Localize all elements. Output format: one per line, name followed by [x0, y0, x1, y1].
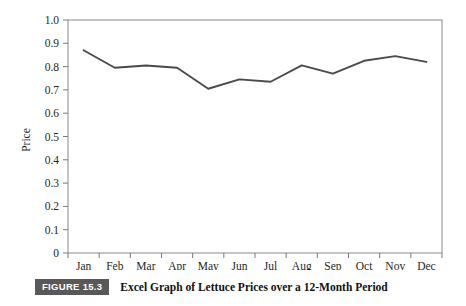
figure-container: 00.10.20.30.40.50.60.70.80.91.0 JanFebMa… — [0, 0, 466, 306]
y-axis-tick-label: 0.1 — [45, 224, 60, 236]
x-axis-tick-label: Mar — [136, 260, 155, 270]
line-chart: 00.10.20.30.40.50.60.70.80.91.0 JanFebMa… — [0, 0, 466, 270]
y-axis-tick-label: 0.6 — [45, 107, 60, 119]
x-axis-ticks — [68, 253, 442, 258]
x-axis-tick-label: Sep — [324, 260, 342, 270]
figure-caption-text: Excel Graph of Lettuce Prices over a 12-… — [120, 281, 387, 293]
x-axis-tick-label: Jul — [264, 260, 277, 270]
y-axis-tick-label: 0.3 — [45, 177, 60, 189]
y-axis-title: Price — [20, 128, 32, 152]
y-axis-tick-label: 0.2 — [45, 200, 60, 212]
y-axis-tick-label: 0.5 — [45, 131, 60, 143]
x-axis-tick-label: Jun — [231, 260, 247, 270]
y-axis-tick-label: 1.0 — [45, 14, 60, 26]
x-axis-tick-labels: JanFebMarAprMayJunJulAugSepOctNovDec — [76, 260, 436, 270]
plot-frame — [68, 20, 442, 253]
y-axis-tick-label: 0.4 — [45, 154, 60, 166]
y-axis-tick-label: 0.7 — [45, 84, 60, 96]
y-axis-tick-label: 0.9 — [45, 37, 60, 49]
y-axis-tick-label: 0.8 — [45, 61, 60, 73]
y-axis-ticks — [63, 20, 68, 253]
y-axis-tick-label: 0 — [53, 247, 59, 259]
chart-area: 00.10.20.30.40.50.60.70.80.91.0 JanFebMa… — [0, 0, 466, 270]
y-axis-tick-labels: 00.10.20.30.40.50.60.70.80.91.0 — [45, 14, 60, 259]
x-axis-tick-label: Feb — [106, 260, 124, 270]
x-axis-tick-label: Apr — [168, 260, 186, 270]
figure-number-badge: FIGURE 15.3 — [35, 279, 109, 295]
x-axis-tick-label: Oct — [356, 260, 373, 270]
x-axis-tick-label: May — [198, 260, 219, 270]
x-axis-tick-label: Jan — [76, 260, 92, 270]
figure-caption-bar: FIGURE 15.3 Excel Graph of Lettuce Price… — [0, 276, 466, 298]
x-axis-tick-label: Dec — [417, 260, 436, 270]
x-axis-tick-label: Aug — [292, 260, 312, 270]
x-axis-tick-label: Nov — [385, 260, 405, 270]
